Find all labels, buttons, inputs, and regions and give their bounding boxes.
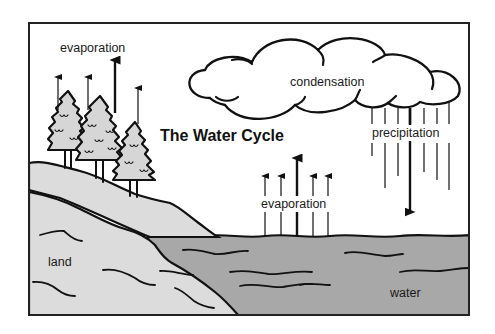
- condensation-label: condensation: [290, 75, 364, 89]
- water-cycle-diagram: evaporation condensation precipitation T…: [0, 0, 495, 334]
- precipitation-label: precipitation: [372, 126, 439, 140]
- evaporation-label-trees: evaporation: [60, 41, 125, 55]
- land-label: land: [48, 255, 72, 269]
- water-label: water: [389, 286, 421, 300]
- evaporation-label-water: evaporation: [261, 197, 326, 211]
- diagram-title: The Water Cycle: [160, 127, 284, 144]
